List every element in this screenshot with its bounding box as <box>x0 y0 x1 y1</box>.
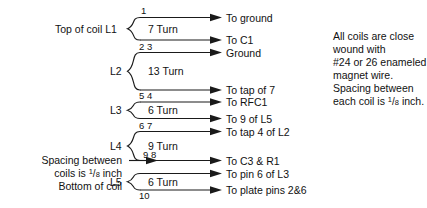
connection-label-to-ground: To ground <box>226 12 273 24</box>
connection-label-to-rfc1: To RFC1 <box>226 96 268 108</box>
note-left-line-2-suffix: inch <box>100 167 122 179</box>
note-right-line-2: wound with <box>332 43 386 55</box>
note-right-line-1: All coils are close <box>333 30 414 42</box>
coil-label-l2: L2 <box>110 65 122 77</box>
tap-number-2-3: 2 3 <box>139 41 152 52</box>
note-right-line-6-suffix: inch. <box>399 95 424 107</box>
coil-label-l4: L4 <box>110 140 122 152</box>
note-left-line-2: coils is 1/8 inch <box>54 167 122 180</box>
turns-label-l3: 6 Turn <box>148 104 178 116</box>
connection-label-to-tap-of-7: To tap of 7 <box>226 84 275 96</box>
note-right-line-3: #24 or 26 enameled <box>333 56 427 68</box>
tap-number-5-4: 5 4 <box>139 90 152 101</box>
connection-label-to-c1: To C1 <box>226 34 254 46</box>
note-right-line-6-prefix: each coil is <box>333 95 388 107</box>
note-left-line-3: Bottom of coil <box>58 180 122 192</box>
coil-winding-diagram: 1 2 3 5 4 6 7 9 8 10 Top of coil L1 7 Tu… <box>0 0 427 208</box>
turns-label-l1: 7 Turn <box>148 23 178 35</box>
connection-label-to-plate-pins: To plate pins 2&6 <box>226 184 307 196</box>
tap-number-10: 10 <box>139 190 150 201</box>
turns-label-l4: 9 Turn <box>148 140 178 152</box>
connection-label-to-pin-6-of-l3: To pin 6 of L3 <box>226 168 289 180</box>
connection-label-ground: Ground <box>226 47 261 59</box>
note-left-line-1: Spacing between <box>41 154 122 166</box>
tap-number-6-7: 6 7 <box>139 120 152 131</box>
turns-label-l2: 13 Turn <box>148 65 184 77</box>
connection-label-to-c3-r1: To C3 & R1 <box>226 155 280 167</box>
connection-label-to-tap-4-of-l2: To tap 4 of L2 <box>226 126 290 138</box>
note-right-line-4: magnet wire. <box>333 69 393 81</box>
note-left-line-2-prefix: coils is <box>54 167 88 179</box>
turns-label-l5: 6 Turn <box>148 176 178 188</box>
connection-label-to-9-of-l5: To 9 of L5 <box>226 113 272 125</box>
tap-number-1: 1 <box>141 5 146 16</box>
note-right-line-5: Spacing between <box>333 82 414 94</box>
label-top-of-coil-l1: Top of coil L1 <box>55 23 117 35</box>
coil-label-l3: L3 <box>110 104 122 116</box>
note-right-line-6: each coil is 1/8 inch. <box>333 95 424 108</box>
